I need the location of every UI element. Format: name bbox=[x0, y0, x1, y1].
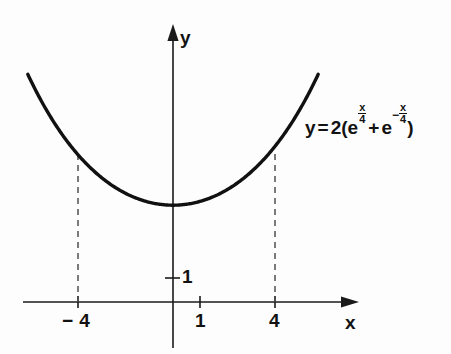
equation-base-second: e bbox=[381, 118, 392, 137]
equation-close-paren: ) bbox=[407, 118, 413, 137]
exponent-second-denominator: 4 bbox=[399, 113, 407, 125]
equation-exponent-second: x4 bbox=[399, 102, 407, 125]
equation-exponent-minus-sign: − bbox=[392, 109, 399, 121]
equation-plus-sign: + bbox=[366, 118, 381, 137]
x-axis-label: x bbox=[345, 312, 356, 334]
y-axis-arrowhead bbox=[167, 24, 178, 41]
equation-coefficient: 2 bbox=[331, 118, 342, 137]
equation-lhs: y bbox=[305, 118, 316, 137]
x-tick-label-minus-4: − 4 bbox=[62, 310, 90, 332]
x-tick-label-4: 4 bbox=[269, 310, 280, 332]
y-axis-label: y bbox=[180, 27, 191, 49]
equation-base-first: e bbox=[348, 118, 359, 137]
x-axis-arrowhead bbox=[341, 297, 359, 308]
x-tick-label-1: 1 bbox=[195, 310, 206, 332]
plot-svg bbox=[0, 0, 451, 354]
exponent-first-denominator: 4 bbox=[358, 113, 366, 125]
figure-canvas: − 4 1 4 1 x y y=2(ex4+e−x4) bbox=[0, 0, 451, 354]
y-tick-label-1: 1 bbox=[182, 266, 193, 288]
equation-annotation: y=2(ex4+e−x4) bbox=[305, 105, 413, 137]
exponent-first-numerator: x bbox=[358, 102, 366, 113]
exponent-second-numerator: x bbox=[399, 102, 407, 113]
equation-exponent-first: x4 bbox=[358, 102, 366, 125]
equation-equals-sign: = bbox=[316, 118, 331, 137]
